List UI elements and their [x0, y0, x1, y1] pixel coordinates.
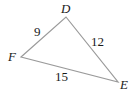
triangle-diagram: D E F 9 12 15 [0, 0, 134, 90]
vertex-label-f: F [7, 49, 17, 64]
vertex-label-d: D [60, 1, 71, 16]
side-label-de: 12 [91, 34, 104, 49]
side-label-df: 9 [34, 24, 41, 39]
triangle-svg: D E F 9 12 15 [0, 0, 134, 90]
side-label-fe: 15 [55, 69, 68, 84]
vertex-label-e: E [119, 77, 128, 90]
